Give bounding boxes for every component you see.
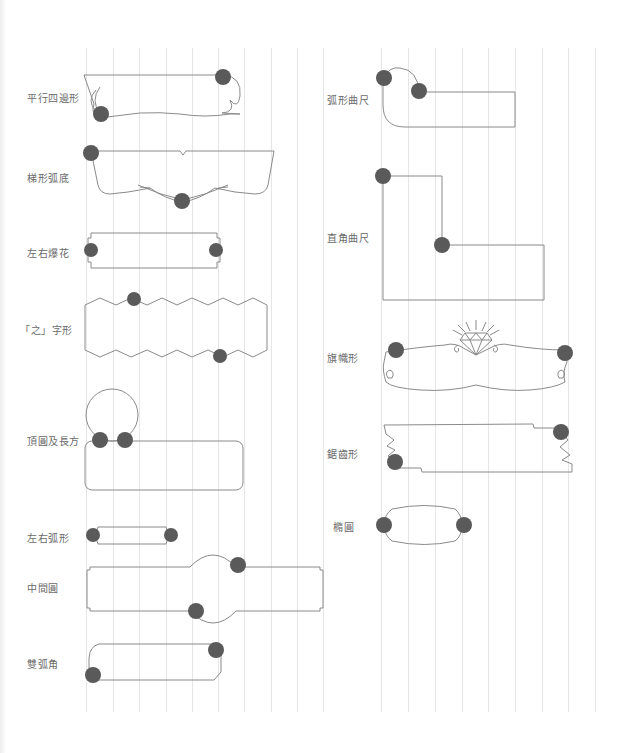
marker-dot [387, 454, 403, 470]
shape-left-right-arc [86, 527, 178, 544]
marker-dot [215, 69, 231, 85]
marker-dot [208, 642, 224, 658]
marker-dot [83, 145, 99, 161]
marker-dot [188, 603, 204, 619]
marker-dot [93, 106, 109, 122]
marker-dot [456, 517, 472, 533]
marker-dot [213, 349, 227, 363]
marker-dot [164, 528, 178, 542]
shape-parallelogram [84, 69, 240, 122]
marker-dot [434, 237, 450, 253]
shape-left-right-burst [84, 233, 223, 268]
marker-dot [376, 517, 392, 533]
shape-middle-circle [87, 555, 323, 623]
marker-dot [92, 432, 108, 448]
marker-dot [174, 193, 190, 209]
shape-sawtooth [384, 424, 572, 472]
marker-dot [553, 424, 569, 440]
shape-double-arc-corner [85, 642, 224, 683]
marker-dot [388, 342, 404, 358]
shape-top-circle-rect [85, 389, 243, 490]
marker-dot [375, 168, 391, 184]
marker-dot [557, 345, 573, 361]
marker-dot [376, 70, 392, 86]
marker-dot [127, 292, 141, 306]
shape-zigzag [85, 292, 267, 363]
shape-trapezoid-arc-bottom [83, 145, 274, 209]
marker-dot [86, 528, 100, 542]
shape-ellipse [376, 506, 472, 545]
marker-dot [230, 557, 246, 573]
shape-right-angle-ruler [375, 168, 544, 300]
marker-dot [411, 83, 427, 99]
shapes-canvas [0, 0, 625, 753]
diamond-icon [453, 320, 499, 355]
marker-dot [117, 432, 133, 448]
marker-dot [85, 667, 101, 683]
shape-arc-square-ruler [376, 68, 515, 127]
shape-banner [383, 320, 573, 390]
marker-dot [84, 243, 98, 257]
marker-dot [209, 243, 223, 257]
